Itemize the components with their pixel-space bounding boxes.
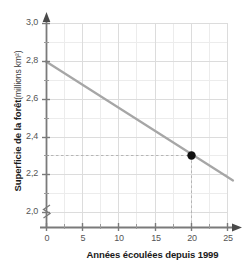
y-axis-title-unit: (millions km²): [13, 51, 23, 100]
grid-major-vertical: [83, 23, 228, 227]
data-point-marker: [187, 151, 195, 159]
y-axis-title: Superficie de la forêt(millions km²): [7, 21, 25, 221]
trend-line: [46, 62, 233, 181]
x-tick-label-5: 5: [71, 233, 95, 243]
x-tick-label-20: 20: [180, 233, 204, 243]
x-tick-label-0: 0: [35, 233, 59, 243]
x-axis-title: Années écoulées depuis 1999: [60, 249, 245, 260]
grid-minor-vertical: [65, 23, 210, 227]
y-axis-title-main: Superficie de la forêt: [12, 100, 23, 192]
y-axis-arrow-icon: [43, 12, 51, 22]
y-axis-break-icon: [44, 205, 51, 218]
x-tick-label-25: 25: [216, 233, 240, 243]
x-tick-label-15: 15: [144, 233, 168, 243]
x-axis-arrow-icon: [232, 224, 242, 232]
chart-figure: 3,0 2,8 2,6 2,4 2,2 2,0 0 5 10 15 20 25 …: [0, 0, 247, 267]
x-tick-label-10: 10: [107, 233, 131, 243]
